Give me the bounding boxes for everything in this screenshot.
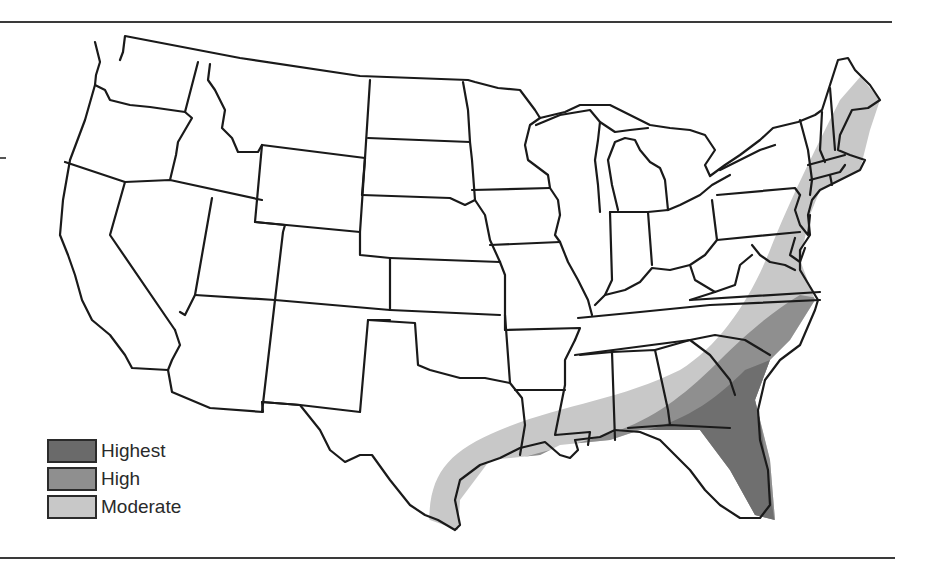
bottom-rule [0, 557, 895, 559]
lake-michigan-west [595, 122, 600, 212]
border-in-oh [648, 212, 652, 265]
border-ok-ar [505, 315, 510, 383]
border-mn-wi [525, 118, 550, 188]
border-sd-ne [362, 195, 475, 205]
border-ca-az [168, 330, 180, 370]
border-wy-south [255, 222, 360, 232]
border-ca-nv [110, 182, 175, 330]
border-id-wy [255, 145, 262, 222]
border-ks-ok [390, 310, 500, 315]
legend-swatch-high [47, 467, 97, 491]
border-wa-or [95, 85, 185, 112]
border-co-ks [360, 232, 390, 310]
legend-item-high: High [47, 465, 181, 493]
border-oh-pa [712, 200, 717, 240]
legend-swatch-moderate [47, 495, 97, 519]
legend-label-moderate: Moderate [101, 497, 181, 517]
border-or-south [65, 162, 262, 200]
border-tn-south [575, 340, 690, 355]
border-ut-wy-co [255, 222, 285, 300]
lower-michigan [608, 138, 668, 210]
border-id-mt [208, 64, 262, 152]
border-ia-il [550, 188, 560, 242]
border-mn-ia [472, 188, 550, 190]
border-ne-ks [390, 258, 500, 262]
border-az-nm [262, 300, 275, 412]
border-nv-ut [180, 198, 212, 315]
border-ut-az [195, 295, 390, 310]
border-oh-wv [690, 240, 752, 292]
legend: Highest High Moderate [47, 437, 181, 521]
border-il-in [595, 212, 612, 305]
legend-item-highest: Highest [47, 437, 181, 465]
border-ia-mo [490, 242, 560, 245]
border-or-id [170, 112, 192, 180]
legend-item-moderate: Moderate [47, 493, 181, 521]
legend-swatch-highest [47, 439, 97, 463]
border-il-mo [560, 242, 592, 315]
border-wa-id [185, 62, 198, 112]
border-ok-tx [368, 320, 510, 383]
legend-label-highest: Highest [101, 441, 165, 461]
border-mi-wi [536, 110, 648, 132]
legend-label-high: High [101, 469, 140, 489]
border-mt-wy [262, 145, 365, 158]
border-mo-ar [505, 328, 580, 340]
border-ne-ia [475, 200, 500, 262]
border-nm-tx [262, 320, 390, 412]
lake-erie [668, 175, 730, 210]
border-pa-ny [717, 188, 800, 195]
border-in-ky [605, 265, 690, 295]
border-nd-sd [368, 138, 470, 142]
